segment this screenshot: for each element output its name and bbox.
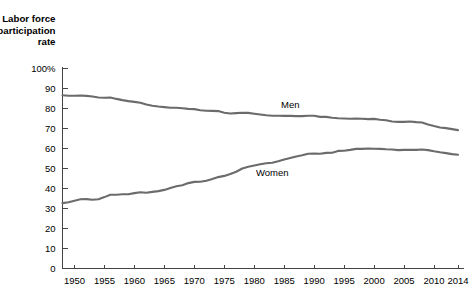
- x-tick-label: 1960: [124, 275, 145, 286]
- y-tick-label: 70: [45, 123, 56, 134]
- x-tick-label: 2014: [447, 275, 468, 286]
- y-tick-label: 10: [45, 243, 56, 254]
- x-tick-label: 1955: [94, 275, 115, 286]
- y-axis-title-line-2: rate: [38, 36, 56, 47]
- series-label-women: Women: [256, 167, 289, 178]
- x-tick-label: 2000: [364, 275, 385, 286]
- series-label-men: Men: [281, 99, 299, 110]
- y-tick-label: 50: [45, 163, 56, 174]
- x-tick-label: 1975: [214, 275, 235, 286]
- y-tick-label: 40: [45, 183, 56, 194]
- y-tick-label: 100%: [31, 63, 56, 74]
- y-tick-label: 30: [45, 203, 56, 214]
- x-tick-label: 1980: [244, 275, 265, 286]
- x-tick-label: 1950: [64, 275, 85, 286]
- x-tick-label: 2010: [423, 275, 444, 286]
- y-tick-label: 20: [45, 223, 56, 234]
- y-axis-title-line-0: Labor force: [2, 13, 56, 24]
- chart-canvas: Labor forceparticipationrate010203040506…: [0, 0, 476, 299]
- x-tick-label: 1970: [184, 275, 205, 286]
- labor-force-participation-chart: Labor forceparticipationrate010203040506…: [0, 0, 476, 299]
- y-tick-label: 0: [50, 263, 55, 274]
- x-tick-label: 1965: [154, 275, 175, 286]
- x-tick-label: 1985: [274, 275, 295, 286]
- y-axis-title-line-1: participation: [0, 25, 56, 36]
- x-tick-label: 1990: [304, 275, 325, 286]
- y-tick-label: 80: [45, 103, 56, 114]
- y-tick-label: 60: [45, 143, 56, 154]
- series-line-men: [63, 95, 459, 130]
- x-tick-label: 1995: [334, 275, 355, 286]
- x-tick-label: 2005: [393, 275, 414, 286]
- y-tick-label: 90: [45, 83, 56, 94]
